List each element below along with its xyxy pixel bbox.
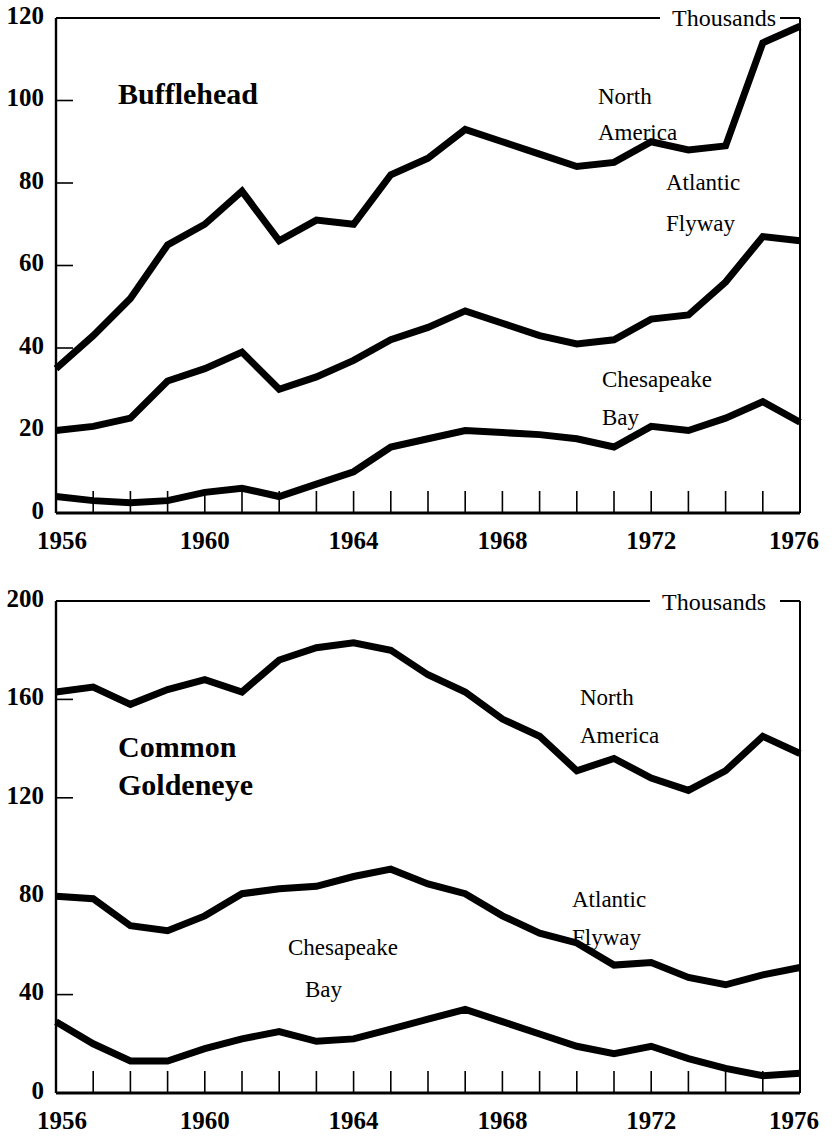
y-tick-label-0: 0	[32, 497, 45, 524]
y-axis-tick-labels-goldeneye: 04080120160200	[7, 585, 45, 1104]
panel-title-bufflehead: Bufflehead	[118, 77, 258, 110]
series-lines-goldeneye	[56, 643, 800, 1076]
series-line-atlantic-flyway	[56, 237, 800, 431]
x-tick-label-1964: 1964	[329, 527, 380, 554]
series-label-chesapeake-line1-bufflehead: Chesapeake	[602, 367, 712, 392]
figure-page: 020406080100120 195619601964196819721976…	[0, 0, 839, 1137]
series-label-atlantic-line2-goldeneye: Flyway	[572, 925, 642, 950]
series-label-chesapeake-line1-goldeneye: Chesapeake	[288, 935, 398, 960]
y-tick-label-200: 200	[7, 585, 45, 612]
series-label-chesapeake-line2-bufflehead: Bay	[602, 405, 640, 430]
y-axis-ticks-goldeneye	[56, 699, 73, 994]
y-tick-label-60: 60	[19, 249, 44, 276]
x-axis-ticks-goldeneye	[93, 1071, 763, 1093]
x-tick-label-1960: 1960	[180, 527, 230, 554]
units-label-goldeneye: Thousands	[662, 589, 766, 615]
x-tick-label-1968: 1968	[477, 527, 527, 554]
y-tick-label-0: 0	[32, 1077, 45, 1104]
y-axis-tick-labels-bufflehead: 020406080100120	[7, 2, 45, 524]
x-tick-label-1972: 1972	[626, 1107, 676, 1134]
chart-panel-goldeneye: 04080120160200 195619601964196819721976 …	[0, 577, 839, 1137]
common-goldeneye-line-chart: 04080120160200 195619601964196819721976 …	[0, 577, 839, 1137]
series-label-north-america-line1-bufflehead: North	[598, 84, 652, 109]
bufflehead-line-chart: 020406080100120 195619601964196819721976…	[0, 0, 839, 560]
x-tick-label-1968: 1968	[477, 1107, 527, 1134]
series-label-north-america-line1-goldeneye: North	[580, 685, 634, 710]
y-tick-label-120: 120	[7, 2, 45, 29]
series-line-atlantic-flyway	[56, 869, 800, 985]
series-label-north-america-line2-goldeneye: America	[580, 723, 659, 748]
x-tick-label-1956: 1956	[37, 527, 87, 554]
panel-title-goldeneye-line2: Goldeneye	[118, 768, 253, 801]
x-tick-label-1956: 1956	[37, 1107, 87, 1134]
x-axis-tick-labels-goldeneye: 195619601964196819721976	[37, 1107, 819, 1134]
series-label-chesapeake-line2-goldeneye: Bay	[305, 977, 343, 1002]
x-tick-label-1964: 1964	[329, 1107, 380, 1134]
panel-title-goldeneye-line1: Common	[118, 730, 237, 763]
series-label-atlantic-line1-goldeneye: Atlantic	[572, 887, 646, 912]
series-line-chesapeake-bay	[56, 402, 800, 503]
y-tick-label-120: 120	[7, 782, 45, 809]
x-tick-label-1972: 1972	[626, 527, 676, 554]
series-label-atlantic-line1-bufflehead: Atlantic	[666, 170, 740, 195]
y-tick-label-80: 80	[19, 167, 44, 194]
series-line-chesapeake-bay	[56, 1009, 800, 1075]
y-tick-label-40: 40	[19, 332, 44, 359]
chart-panel-bufflehead: 020406080100120 195619601964196819721976…	[0, 0, 839, 560]
y-tick-label-20: 20	[19, 414, 44, 441]
y-tick-label-100: 100	[7, 84, 45, 111]
units-label-bufflehead: Thousands	[672, 5, 776, 31]
y-tick-label-160: 160	[7, 683, 45, 710]
x-axis-tick-labels-bufflehead: 195619601964196819721976	[37, 527, 819, 554]
y-axis-ticks-bufflehead	[56, 101, 73, 431]
y-tick-label-80: 80	[19, 880, 44, 907]
series-label-atlantic-line2-bufflehead: Flyway	[666, 211, 736, 236]
series-label-north-america-line2-bufflehead: America	[598, 120, 677, 145]
x-tick-label-1976: 1976	[769, 527, 819, 554]
x-tick-label-1960: 1960	[180, 1107, 230, 1134]
y-tick-label-40: 40	[19, 978, 44, 1005]
x-tick-label-1976: 1976	[769, 1107, 819, 1134]
